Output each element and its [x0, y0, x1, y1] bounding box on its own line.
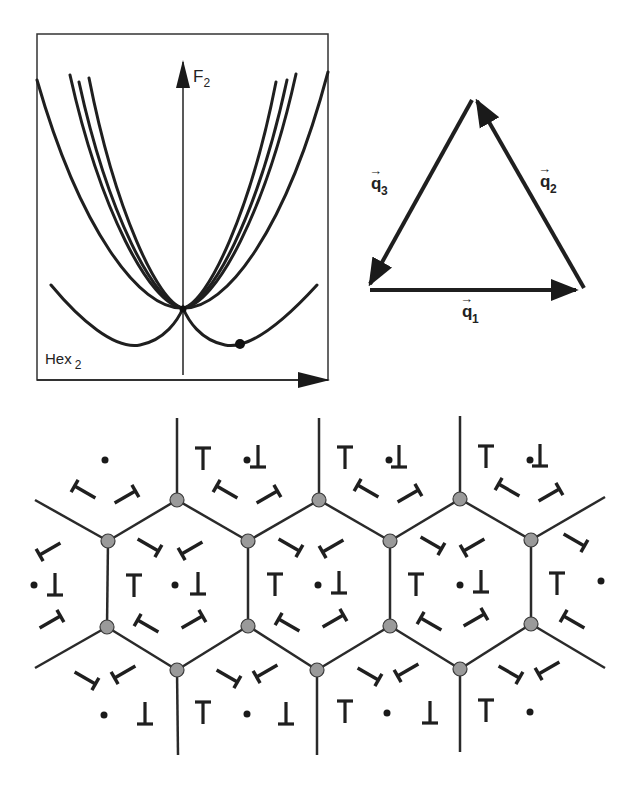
dot-symbol — [384, 710, 391, 717]
tilted-dislocation-symbol — [319, 534, 347, 558]
tee-down-symbol — [278, 702, 294, 724]
crossing-point — [180, 306, 187, 313]
lattice-edge — [108, 500, 177, 541]
lattice-edge — [177, 500, 248, 541]
dot-symbol — [244, 711, 251, 718]
dot-symbol — [457, 582, 464, 589]
tee-up-symbol — [478, 700, 494, 722]
lattice-node — [312, 493, 326, 507]
y-axis-arrow-icon — [176, 60, 190, 88]
tilted-dislocation-symbol — [394, 484, 422, 508]
tilted-dislocation-symbol — [394, 658, 422, 682]
tilted-dislocation-symbol — [111, 660, 139, 684]
lattice-node — [524, 533, 538, 547]
svg-text:→: → — [460, 291, 473, 306]
tee-up-symbol — [549, 573, 565, 595]
tee-down-symbol — [532, 444, 548, 466]
tilted-dislocation-symbol — [71, 666, 99, 690]
dot-symbol — [172, 582, 179, 589]
lattice-edge — [390, 626, 460, 669]
marked-minimum-point — [235, 339, 245, 349]
lattice-node — [524, 617, 538, 631]
dot-symbol — [31, 582, 38, 589]
tee-up-symbol — [408, 574, 424, 596]
lattice-edge — [35, 627, 107, 668]
lattice-node — [170, 493, 184, 507]
tilted-dislocation-symbol — [535, 656, 563, 680]
tilted-dislocation-symbol — [134, 614, 162, 638]
lattice-node — [383, 534, 397, 548]
svg-text:3: 3 — [381, 184, 388, 198]
tilted-dislocation-symbol — [495, 478, 523, 502]
tilted-dislocation-symbol — [560, 610, 588, 634]
lattice-edge — [248, 626, 317, 670]
label-q1: q 1 → — [460, 291, 479, 326]
svg-text:→: → — [538, 161, 551, 176]
tilted-dislocation-symbol — [460, 533, 488, 557]
svg-text:2: 2 — [550, 182, 557, 196]
tilted-dislocation-symbol — [319, 609, 347, 633]
energy-plot: F2 Hex2 — [37, 34, 330, 388]
tilted-dislocation-symbol — [36, 610, 64, 634]
tee-up-symbol — [478, 446, 494, 468]
tee-up-symbol — [337, 701, 353, 723]
lattice-node — [241, 619, 255, 633]
phase-label: Hex2 — [45, 350, 82, 372]
lattice-node — [453, 492, 467, 506]
svg-text:1: 1 — [472, 312, 479, 326]
tee-down-symbol — [422, 701, 438, 723]
lattice-node — [383, 619, 397, 633]
dot-symbol — [598, 578, 605, 585]
tilted-dislocation-symbol — [354, 479, 382, 503]
tilted-dislocation-symbol — [354, 662, 382, 686]
vector-labels: q 1 → q 2 → q 3 → — [369, 161, 557, 326]
tilted-dislocation-symbol — [213, 664, 241, 688]
tee-down-symbol — [137, 702, 153, 724]
lattice-edge — [248, 500, 319, 541]
tilted-dislocation-symbol — [275, 613, 303, 637]
svg-text:→: → — [369, 163, 382, 178]
tee-down-symbol — [473, 570, 489, 592]
tilted-dislocation-symbol — [178, 536, 206, 560]
tilted-dislocation-symbol — [460, 608, 488, 632]
lattice-edge — [177, 670, 178, 755]
tee-down-symbol — [47, 573, 63, 595]
tilted-dislocation-symbol — [213, 480, 241, 504]
tilted-dislocation-symbol — [134, 533, 162, 557]
tilted-dislocation-symbol — [253, 659, 281, 683]
tilted-dislocation-symbol — [111, 485, 139, 509]
lattice-edge — [531, 497, 605, 540]
dot-symbol — [101, 712, 108, 719]
tilted-dislocation-symbol — [417, 531, 445, 555]
dot-symbol — [527, 709, 534, 716]
tee-down-symbol — [331, 571, 347, 593]
lattice-node — [241, 534, 255, 548]
lattice-node — [100, 620, 114, 634]
lattice-edge — [460, 624, 531, 669]
lattice-edge — [390, 499, 460, 541]
tilted-dislocation-symbol — [71, 480, 99, 504]
y-axis-label: F2 — [193, 67, 210, 90]
lattice-edge — [107, 541, 108, 627]
lattice-edge — [107, 627, 177, 670]
dot-symbol — [386, 457, 393, 464]
dot-symbol — [102, 457, 109, 464]
lattice-edge — [319, 500, 390, 541]
tee-up-symbol — [126, 575, 142, 597]
label-q3: q 3 → — [369, 163, 388, 198]
curve-double-well — [51, 285, 317, 346]
dot-symbol — [315, 582, 322, 589]
tee-up-symbol — [195, 702, 211, 724]
lattice-edge — [177, 626, 248, 670]
label-q2: q 2 → — [538, 161, 557, 196]
tilted-dislocation-symbol — [275, 533, 303, 557]
lattice-edge — [531, 624, 605, 668]
tee-up-symbol — [337, 447, 353, 469]
dot-symbol — [527, 457, 534, 464]
tilted-dislocation-symbol — [417, 612, 445, 636]
lattice-node — [310, 663, 324, 677]
tilted-dislocation-symbol — [36, 537, 64, 561]
tilted-dislocation-symbol — [178, 610, 206, 634]
lattice-node — [453, 662, 467, 676]
tee-down-symbol — [250, 445, 266, 467]
